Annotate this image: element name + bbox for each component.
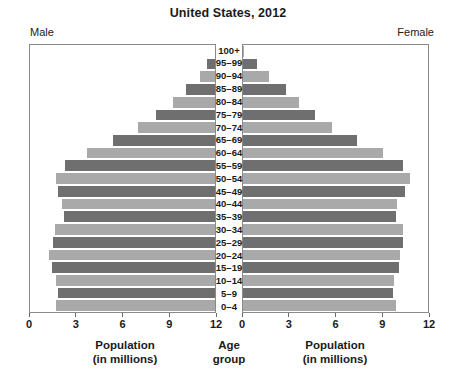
bar-row bbox=[30, 121, 215, 134]
bar-row bbox=[243, 261, 428, 274]
bar-row bbox=[30, 198, 215, 211]
female-axis-caption: Population (in millions) bbox=[250, 338, 420, 366]
axis-tick-label: 9 bbox=[166, 318, 172, 330]
female-bar bbox=[243, 110, 315, 121]
male-axis-caption-line2: (in millions) bbox=[40, 352, 210, 366]
male-bar bbox=[52, 262, 215, 273]
female-bar bbox=[243, 59, 257, 70]
bar-row bbox=[30, 261, 215, 274]
bar-row bbox=[30, 185, 215, 198]
bar-row bbox=[243, 45, 428, 58]
bar-row bbox=[30, 299, 215, 312]
bar-row bbox=[30, 274, 215, 287]
age-group-label: 0–4 bbox=[216, 300, 242, 313]
female-bar bbox=[243, 275, 394, 286]
bar-row bbox=[243, 274, 428, 287]
axis-tick bbox=[242, 313, 243, 317]
chart-title: United States, 2012 bbox=[0, 6, 456, 20]
bar-row bbox=[30, 83, 215, 96]
female-bar bbox=[243, 135, 357, 146]
male-bar bbox=[56, 173, 215, 184]
female-bar bbox=[243, 250, 400, 261]
bar-row bbox=[243, 96, 428, 109]
bar-row bbox=[243, 223, 428, 236]
axis-tick-label: 0 bbox=[26, 318, 32, 330]
bar-row bbox=[30, 249, 215, 262]
bar-row bbox=[30, 45, 215, 58]
age-group-label: 15–19 bbox=[216, 262, 242, 275]
bar-row bbox=[30, 287, 215, 300]
bar-row bbox=[243, 172, 428, 185]
axis-tick-label: 12 bbox=[210, 318, 222, 330]
bar-row bbox=[243, 249, 428, 262]
female-bar bbox=[243, 186, 405, 197]
age-group-label: 20–24 bbox=[216, 249, 242, 262]
bar-row bbox=[30, 58, 215, 71]
male-bar bbox=[186, 84, 215, 95]
axis-tick-label: 3 bbox=[286, 318, 292, 330]
axis-tick bbox=[216, 313, 217, 317]
bar-row bbox=[243, 236, 428, 249]
age-group-label: 45–49 bbox=[216, 185, 242, 198]
male-bar bbox=[58, 186, 215, 197]
female-bar bbox=[243, 300, 396, 311]
female-bar bbox=[243, 160, 403, 171]
female-bar bbox=[243, 173, 410, 184]
female-plot-panel bbox=[242, 44, 429, 313]
axis-tick-label: 0 bbox=[239, 318, 245, 330]
male-bar bbox=[49, 250, 216, 261]
female-side-label: Female bbox=[397, 26, 434, 38]
bar-row bbox=[243, 159, 428, 172]
male-axis-caption-line1: Population bbox=[40, 338, 210, 352]
female-axis-caption-line1: Population bbox=[250, 338, 420, 352]
bar-row bbox=[30, 172, 215, 185]
axis-tick-label: 9 bbox=[379, 318, 385, 330]
male-bar bbox=[87, 148, 215, 159]
age-group-label: 30–34 bbox=[216, 223, 242, 236]
bar-row bbox=[243, 198, 428, 211]
bar-row bbox=[30, 236, 215, 249]
male-bar bbox=[173, 97, 215, 108]
bar-row bbox=[243, 185, 428, 198]
bar-row bbox=[30, 147, 215, 160]
bar-row bbox=[30, 223, 215, 236]
axis-tick bbox=[335, 313, 336, 317]
age-group-label: 10–14 bbox=[216, 275, 242, 288]
female-bar bbox=[243, 122, 332, 133]
age-group-label: 25–29 bbox=[216, 236, 242, 249]
age-group-label: 50–54 bbox=[216, 172, 242, 185]
female-bar bbox=[243, 262, 399, 273]
bar-row bbox=[243, 70, 428, 83]
axis-tick bbox=[382, 313, 383, 317]
age-group-label: 60–64 bbox=[216, 147, 242, 160]
axis-tick bbox=[288, 313, 289, 317]
male-bar bbox=[138, 122, 215, 133]
population-pyramid-chart: United States, 2012 Male Female 100+95–9… bbox=[0, 0, 456, 383]
axis-tick-label: 3 bbox=[73, 318, 79, 330]
axis-tick bbox=[29, 313, 30, 317]
female-axis-caption-line2: (in millions) bbox=[250, 352, 420, 366]
age-group-label: 80–84 bbox=[216, 95, 242, 108]
female-bar bbox=[243, 148, 383, 159]
male-bar-rows bbox=[30, 45, 215, 312]
female-bar bbox=[243, 211, 396, 222]
male-bar bbox=[58, 288, 215, 299]
female-bar bbox=[243, 224, 403, 235]
age-group-label: 65–69 bbox=[216, 134, 242, 147]
female-bar bbox=[243, 199, 397, 210]
male-bar bbox=[200, 71, 215, 82]
age-group-label: 70–74 bbox=[216, 121, 242, 134]
age-group-label: 55–59 bbox=[216, 159, 242, 172]
bar-row bbox=[243, 58, 428, 71]
female-bar bbox=[243, 288, 393, 299]
axis-tick-label: 6 bbox=[332, 318, 338, 330]
axis-tick bbox=[122, 313, 123, 317]
axis-tick-label: 6 bbox=[119, 318, 125, 330]
age-group-label: 95–99 bbox=[216, 57, 242, 70]
female-bar bbox=[243, 71, 269, 82]
bar-row bbox=[30, 70, 215, 83]
male-bar bbox=[55, 224, 215, 235]
bar-row bbox=[30, 134, 215, 147]
bar-row bbox=[243, 83, 428, 96]
bar-row bbox=[243, 121, 428, 134]
